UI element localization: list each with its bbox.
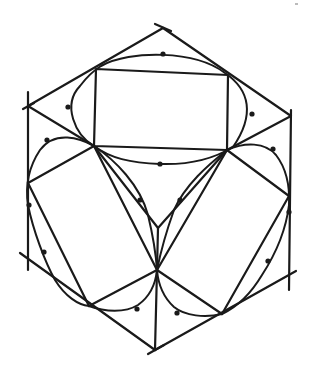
inner-lines [28, 69, 291, 350]
speck [295, 3, 298, 5]
inscribed-ellipses [27, 55, 289, 316]
tangent-dots [26, 51, 291, 315]
outer-hexagon [20, 24, 296, 354]
isometric-cube-diagram [0, 0, 315, 377]
